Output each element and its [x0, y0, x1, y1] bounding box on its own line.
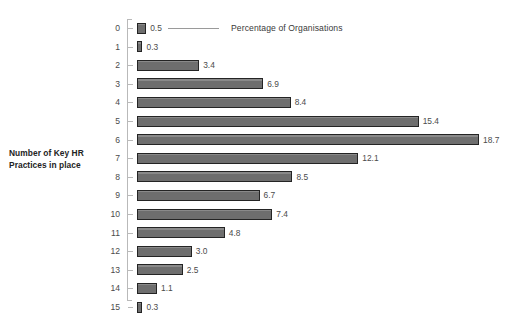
y-axis-tick-label: 3	[98, 75, 120, 94]
bar-value-label: 1.1	[161, 279, 173, 298]
y-axis-tick-label: 10	[98, 205, 120, 224]
y-axis-tick-label: 8	[98, 168, 120, 187]
y-axis-tick-label: 0	[98, 19, 120, 38]
bar-value-label: 6.7	[264, 186, 276, 205]
bar-row: 618.7	[0, 131, 509, 150]
bar[interactable]	[137, 41, 142, 52]
y-axis-tick-mark	[128, 195, 133, 196]
legend-leader-line	[168, 28, 219, 29]
bar[interactable]	[137, 264, 183, 275]
bar-value-label: 6.9	[267, 75, 279, 94]
bar-value-label: 3.4	[203, 56, 215, 75]
bar-row: 114.8	[0, 224, 509, 243]
y-axis-tick-label: 1	[98, 38, 120, 57]
y-axis-tick-label: 12	[98, 242, 120, 261]
bar-row: 88.5	[0, 168, 509, 187]
bar-value-label: 8.4	[295, 93, 307, 112]
bar-value-label: 18.7	[483, 131, 499, 150]
bar-row: 515.4	[0, 112, 509, 131]
bar[interactable]	[137, 116, 419, 127]
bar-row: 123.0	[0, 242, 509, 261]
bar-value-label: 12.1	[362, 149, 378, 168]
bar-row: 10.3	[0, 38, 509, 57]
y-axis-tick-label: 4	[98, 93, 120, 112]
y-axis-tick-label: 11	[98, 224, 120, 243]
bar[interactable]	[137, 60, 199, 71]
bar-value-label: 8.5	[296, 168, 308, 187]
y-axis-tick-label: 13	[98, 261, 120, 280]
bar-chart-plot-area: 00.510.323.436.948.4515.4618.7712.188.59…	[0, 0, 509, 317]
bar-value-label: 0.5	[150, 19, 162, 38]
bar[interactable]	[137, 134, 479, 145]
bar[interactable]	[137, 227, 225, 238]
bar-value-label: 3.0	[196, 242, 208, 261]
bar-row: 23.4	[0, 56, 509, 75]
y-axis-tick-label: 7	[98, 149, 120, 168]
bar-row: 36.9	[0, 75, 509, 94]
bar-row: 132.5	[0, 261, 509, 280]
y-axis-tick-mark	[128, 214, 133, 215]
y-axis-tick-label: 2	[98, 56, 120, 75]
y-axis-tick-label: 6	[98, 131, 120, 150]
bar-row: 712.1	[0, 149, 509, 168]
y-axis-tick-mark	[128, 177, 133, 178]
legend-label: Percentage of Organisations	[231, 23, 343, 33]
bar-row: 150.3	[0, 298, 509, 317]
y-axis-tick-label: 15	[98, 298, 120, 317]
bar[interactable]	[137, 78, 263, 89]
bar-row: 107.4	[0, 205, 509, 224]
bar-row: 141.1	[0, 279, 509, 298]
y-axis-tick-mark	[128, 307, 133, 308]
bar[interactable]	[137, 246, 192, 257]
bar-row: 96.7	[0, 186, 509, 205]
bar-row: 48.4	[0, 93, 509, 112]
y-axis-tick-mark	[128, 84, 133, 85]
bar[interactable]	[137, 23, 146, 34]
y-axis-tick-label: 14	[98, 279, 120, 298]
bar[interactable]	[137, 209, 272, 220]
y-axis-tick-mark	[128, 121, 133, 122]
bar-value-label: 7.4	[276, 205, 288, 224]
bar[interactable]	[137, 171, 292, 182]
y-axis-tick-mark	[128, 158, 133, 159]
y-axis-tick-label: 9	[98, 186, 120, 205]
y-axis-tick-mark	[128, 233, 133, 234]
y-axis-tick-mark	[128, 140, 133, 141]
bar[interactable]	[137, 153, 358, 164]
y-axis-tick-mark	[128, 65, 133, 66]
bar-value-label: 0.3	[146, 38, 158, 57]
bar[interactable]	[137, 302, 142, 313]
bar-value-label: 4.8	[229, 224, 241, 243]
bar[interactable]	[137, 190, 260, 201]
bar[interactable]	[137, 97, 291, 108]
y-axis-tick-mark	[128, 28, 133, 29]
y-axis-tick-mark	[128, 102, 133, 103]
bar-value-label: 0.3	[146, 298, 158, 317]
y-axis-tick-mark	[128, 288, 133, 289]
y-axis-tick-mark	[128, 251, 133, 252]
bar[interactable]	[137, 283, 157, 294]
y-axis-tick-mark	[128, 270, 133, 271]
bar-value-label: 15.4	[423, 112, 439, 131]
y-axis-tick-label: 5	[98, 112, 120, 131]
bar-value-label: 2.5	[187, 261, 199, 280]
y-axis-tick-mark	[128, 47, 133, 48]
